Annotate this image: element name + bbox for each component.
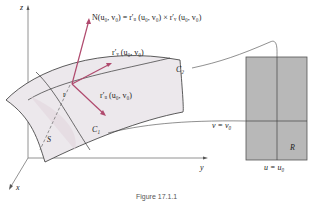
c2-label: C₂ [176, 65, 184, 74]
x-axis-label: x [15, 183, 20, 192]
y-axis-label: y [199, 163, 204, 172]
x-arrow-icon [9, 184, 13, 190]
u-line-label: u = u₀ [264, 163, 284, 172]
z-axis-label: z [19, 3, 24, 12]
surface-label: S [47, 135, 51, 144]
figure-caption: Figure 17.1.1 [136, 193, 177, 201]
c1-label: C₁ [92, 125, 100, 134]
surface-diagram: z y x N(u₀, v₀) = r′ᵤ (u₀, v₀) × r′ᵥ (u₀… [0, 0, 312, 201]
tangent-u-label: r′ᵤ (u₀, v₀) [100, 91, 132, 100]
v-line-label: v = v₀ [212, 121, 232, 130]
normal-arrow-icon [86, 18, 91, 24]
point-r-label: r [63, 90, 66, 99]
y-arrow-icon [203, 157, 208, 160]
z-arrow-icon [27, 5, 30, 10]
normal-formula: N(u₀, v₀) = r′ᵤ (u₀, v₀) × r′ᵥ (u₀, v₀) [92, 13, 202, 22]
region-label: R [289, 143, 295, 152]
tangent-v-label: r′ᵥ (u₀, v₀) [112, 48, 144, 57]
region-r [246, 57, 307, 160]
